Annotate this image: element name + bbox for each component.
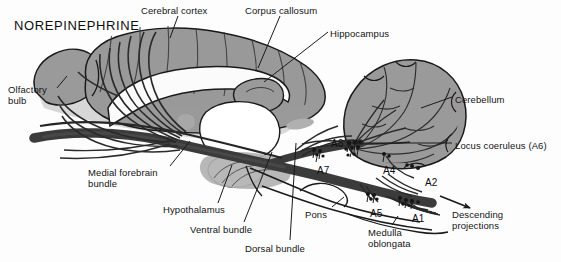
- label-medulla-oblongata: Medulla oblongata: [368, 227, 411, 249]
- label-olfactory-bulb: Olfactory bulb: [8, 84, 47, 106]
- label-locus-coeruleus: Locus coeruleus (A6): [455, 140, 547, 151]
- descending-projections-arrow: [440, 196, 470, 208]
- cell-group-label-A1: A1: [412, 213, 424, 224]
- figure-title: NOREPINEPHRINE: [14, 18, 139, 33]
- label-hippocampus: Hippocampus: [330, 28, 389, 39]
- descending-arrow: [440, 196, 470, 208]
- cell-group-label-A5: A5: [370, 208, 382, 219]
- cell-group-label-A6: A6: [331, 138, 343, 149]
- cell-group-label-A4: A4: [383, 165, 395, 176]
- label-hypothalamus: Hypothalamus: [163, 204, 225, 215]
- label-descending-projections: Descending projections: [452, 209, 503, 231]
- label-ventral-bundle: Ventral bundle: [190, 224, 252, 235]
- label-cerebral-cortex: Cerebral cortex: [141, 5, 207, 16]
- label-pons: Pons: [305, 209, 327, 220]
- label-medial-forebrain-bundle: Medial forebrain bundle: [88, 167, 158, 189]
- label-cerebellum: Cerebellum: [455, 94, 505, 105]
- label-corpus-callosum: Corpus callosum: [245, 5, 317, 16]
- label-dorsal-bundle: Dorsal bundle: [245, 243, 305, 254]
- cell-group-label-A2: A2: [425, 177, 437, 188]
- norepinephrine-pathway-figure: NOREPINEPHRINE Cerebral cortexCorpus cal…: [0, 0, 561, 262]
- cell-group-label-A7: A7: [317, 165, 329, 176]
